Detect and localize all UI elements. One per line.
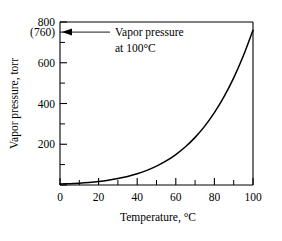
x-tick-label-60: 60 — [170, 191, 182, 203]
annotation-line-2: at 100°C — [115, 42, 156, 54]
y-tick-label-600: 600 — [38, 57, 56, 69]
x-tick-label-40: 40 — [131, 191, 143, 203]
x-axis-title: Temperature, °C — [120, 211, 196, 224]
y-tick-label-200: 200 — [38, 138, 56, 150]
y-tick-label-400: 400 — [38, 98, 56, 110]
x-tick-label-80: 80 — [209, 191, 221, 203]
x-tick-label-0: 0 — [57, 191, 63, 203]
x-tick-label-100: 100 — [244, 191, 262, 203]
y-axis-title: Vapor pressure, torr — [8, 58, 21, 149]
x-tick-label-20: 20 — [93, 191, 105, 203]
plot-background — [60, 22, 253, 185]
y-tick-label-760: (760) — [30, 26, 55, 39]
vapor-pressure-chart-figure: 800 (760) 600 400 200 0 20 40 60 80 100 … — [0, 0, 282, 241]
annotation-line-1: Vapor pressure — [115, 26, 184, 39]
chart-svg: 800 (760) 600 400 200 0 20 40 60 80 100 … — [0, 0, 282, 241]
